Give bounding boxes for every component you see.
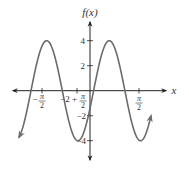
function-graph: 4 2 −2 −4 − π 2 −2 + π 2 π 2 f(x) x <box>0 0 189 174</box>
y-tick-label-2: 2 <box>81 61 86 71</box>
y-tick-label-4: 4 <box>81 36 86 46</box>
x-tick-label-neg-pi-over-2: − π 2 <box>32 92 45 110</box>
svg-text:π: π <box>40 92 45 101</box>
svg-text:−: − <box>32 94 37 104</box>
svg-text:π: π <box>81 92 86 101</box>
svg-text:π: π <box>137 94 142 103</box>
x-axis-label: x <box>171 84 177 96</box>
x-tick-label-pi-over-2: π 2 <box>136 94 143 112</box>
svg-text:2: 2 <box>40 101 44 110</box>
curve-left-arrow-icon <box>19 136 20 137</box>
y-axis-label: f(x) <box>82 6 98 19</box>
svg-text:2: 2 <box>81 101 85 110</box>
svg-text:2: 2 <box>137 103 141 112</box>
y-tick-label-neg2: −2 <box>76 111 86 121</box>
